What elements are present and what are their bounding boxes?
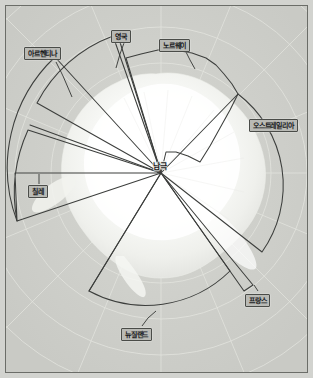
claim-label-australia[interactable]: 오스트레일리아 (249, 119, 298, 132)
map-canvas (6, 6, 308, 373)
claim-label-argentina[interactable]: 아르헨티나 (24, 47, 61, 60)
south-pole-label: 남극 (153, 160, 167, 171)
claim-label-france[interactable]: 프랑스 (245, 294, 270, 307)
antarctic-claims-map: 아르헨티나 영국 칠레 노르웨이 오스트레일리아 프랑스 뉴질랜드 남극 (0, 0, 313, 378)
claim-label-norway[interactable]: 노르웨이 (159, 39, 190, 52)
claim-label-chile[interactable]: 칠레 (28, 185, 48, 198)
map-frame: 아르헨티나 영국 칠레 노르웨이 오스트레일리아 프랑스 뉴질랜드 남극 (5, 5, 308, 373)
claim-label-uk[interactable]: 영국 (111, 30, 131, 43)
claim-label-newzealand[interactable]: 뉴질랜드 (121, 328, 152, 341)
